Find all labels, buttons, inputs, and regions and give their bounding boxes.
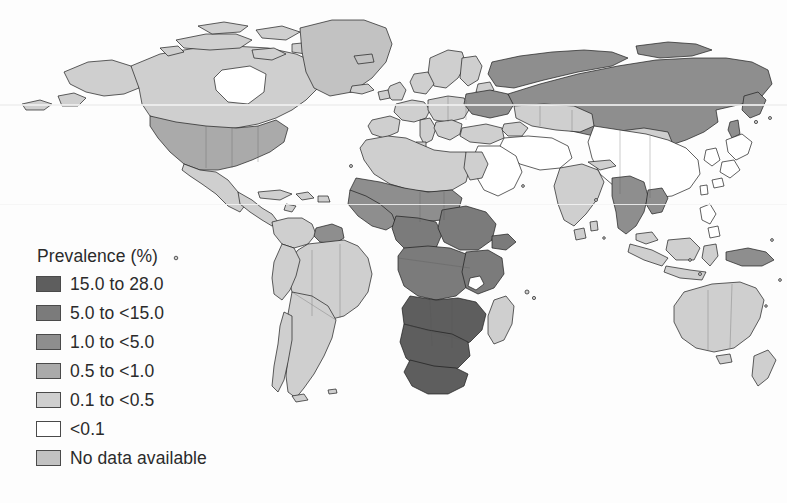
legend-item-15-to-28: 15.0 to 28.0 <box>36 272 207 296</box>
legend-swatch-5-to-15 <box>36 305 61 321</box>
legend-label-1-to-5: 1.0 to <5.0 <box>70 332 154 353</box>
legend-swatch-0-5-to-1 <box>36 363 61 379</box>
legend-item-5-to-15: 5.0 to <15.0 <box>36 301 207 325</box>
legend-swatch-15-to-28 <box>36 276 61 292</box>
legend-item-no-data: No data available <box>36 446 207 470</box>
legend-item-under-0-1: <0.1 <box>36 417 207 441</box>
legend-item-0-1-to-0-5: 0.1 to <0.5 <box>36 388 207 412</box>
legend-title: Prevalence (%) <box>37 246 207 267</box>
legend-label-0-5-to-1: 0.5 to <1.0 <box>70 361 154 382</box>
legend-swatch-0-1-to-0-5 <box>36 392 61 408</box>
legend-label-under-0-1: <0.1 <box>70 419 105 440</box>
legend-item-1-to-5: 1.0 to <5.0 <box>36 330 207 354</box>
legend-swatch-no-data <box>36 450 61 466</box>
prevalence-world-map-figure: .land{stroke:#1c1c1c;stroke-width:.7;str… <box>0 0 787 503</box>
map-legend: Prevalence (%) 15.0 to 28.0 5.0 to <15.0… <box>36 246 207 475</box>
legend-item-0-5-to-1: 0.5 to <1.0 <box>36 359 207 383</box>
legend-label-no-data: No data available <box>70 448 207 469</box>
legend-label-15-to-28: 15.0 to 28.0 <box>70 274 164 295</box>
legend-label-0-1-to-0-5: 0.1 to <0.5 <box>70 390 154 411</box>
legend-swatch-under-0-1 <box>36 421 61 437</box>
legend-swatch-1-to-5 <box>36 334 61 350</box>
legend-label-5-to-15: 5.0 to <15.0 <box>70 303 164 324</box>
